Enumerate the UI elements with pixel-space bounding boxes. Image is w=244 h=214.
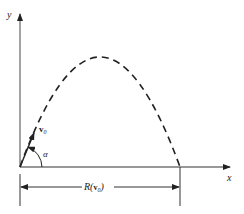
range-label: R(v0) [83,181,104,193]
velocity-vector-arrow [20,133,34,167]
velocity-label: v0 [39,124,47,135]
angle-arc [28,147,42,167]
projectile-diagram: y x v0 α R(v0) [0,0,244,214]
y-axis-label: y [6,9,12,20]
x-axis-label: x [226,172,232,183]
angle-label: α [43,149,48,159]
